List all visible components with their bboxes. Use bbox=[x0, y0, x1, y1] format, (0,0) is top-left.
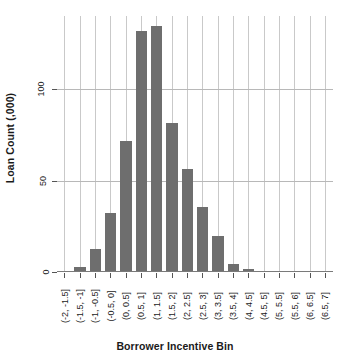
x-axis-tick-label: (-2, -1.5] bbox=[58, 281, 72, 333]
x-axis-tick-label-text: (4.5, 5] bbox=[259, 292, 269, 320]
bar bbox=[212, 236, 223, 271]
x-axis-tick-label: (-1, -0.5] bbox=[88, 281, 102, 333]
x-axis-tick-mark bbox=[264, 273, 265, 278]
x-axis-tick-label: (0.5, 1] bbox=[134, 281, 148, 333]
x-axis-tick-label: (5.5, 6] bbox=[288, 281, 302, 333]
x-axis-tick-label: (1, 1.5] bbox=[150, 281, 164, 333]
vertical-gridline bbox=[95, 16, 96, 272]
x-axis-tick-label: (6.5, 7] bbox=[318, 281, 332, 333]
plot-area bbox=[57, 16, 333, 272]
bar bbox=[182, 169, 193, 271]
vertical-gridline bbox=[310, 16, 311, 272]
x-axis-tick-label-text: (-1, -0.5] bbox=[90, 289, 100, 323]
x-axis-tick-label: (2, 2.5] bbox=[180, 281, 194, 333]
x-axis-baseline bbox=[57, 271, 333, 272]
x-axis-tick-label-text: (1.5, 2] bbox=[167, 292, 177, 320]
vertical-gridline bbox=[264, 16, 265, 272]
vertical-gridline bbox=[294, 16, 295, 272]
x-axis-tick-label-text: (-2, -1.5] bbox=[60, 289, 70, 323]
x-axis-tick-label: (4, 4.5] bbox=[242, 281, 256, 333]
x-axis-tick-mark bbox=[172, 273, 173, 278]
x-axis-tick-label-text: (3, 3.5] bbox=[213, 292, 223, 320]
x-axis-tick-label-text: (0, 0.5] bbox=[121, 292, 131, 320]
y-axis-title-text: Loan Count (,000) bbox=[4, 92, 16, 182]
x-axis-tick-label-text: (2, 2.5] bbox=[182, 292, 192, 320]
y-axis-tick-mark bbox=[52, 272, 57, 273]
x-axis-tick-label-text: (-1.5, -1] bbox=[75, 289, 85, 323]
x-axis-tick-mark bbox=[156, 273, 157, 278]
x-axis-tick-label-text: (2.5, 3] bbox=[198, 292, 208, 320]
x-axis-tick-label-text: (6, 6.5] bbox=[305, 292, 315, 320]
y-axis-tick-label: 50 bbox=[26, 175, 48, 187]
y-axis-tick-label-text: 0 bbox=[40, 269, 50, 274]
x-axis-tick-label: (3, 3.5] bbox=[211, 281, 225, 333]
x-axis-tick-mark bbox=[141, 273, 142, 278]
y-axis-tick-label: 0 bbox=[26, 266, 48, 278]
vertical-gridline bbox=[64, 16, 65, 272]
x-axis-tick-label-text: (1, 1.5] bbox=[152, 292, 162, 320]
vertical-gridline bbox=[80, 16, 81, 272]
x-axis-tick-label: (-0.5, 0] bbox=[104, 281, 118, 333]
x-axis-tick-label: (4.5, 5] bbox=[257, 281, 271, 333]
x-axis-tick-mark bbox=[110, 273, 111, 278]
bar bbox=[197, 207, 208, 271]
x-axis-tick-mark bbox=[202, 273, 203, 278]
bar bbox=[120, 141, 131, 271]
x-axis-tick-mark bbox=[80, 273, 81, 278]
x-axis-tick-label: (6, 6.5] bbox=[303, 281, 317, 333]
x-axis-tick-mark bbox=[233, 273, 234, 278]
histogram-chart: Loan Count (,000) 050100 (-2, -1.5](-1.5… bbox=[0, 0, 350, 361]
x-axis-tick-label-text: (6.5, 7] bbox=[320, 292, 330, 320]
x-axis-tick-mark bbox=[310, 273, 311, 278]
x-axis-tick-mark bbox=[279, 273, 280, 278]
x-axis-tick-mark bbox=[325, 273, 326, 278]
vertical-gridline bbox=[248, 16, 249, 272]
x-axis-title: Borrower Incentive Bin bbox=[0, 340, 350, 352]
x-axis-tick-label: (0, 0.5] bbox=[119, 281, 133, 333]
y-axis-tick-label: 100 bbox=[26, 83, 48, 95]
x-axis-tick-label-text: (-0.5, 0] bbox=[106, 290, 116, 321]
bar bbox=[151, 26, 162, 271]
x-axis-tick-label-text: (5.5, 6] bbox=[290, 292, 300, 320]
bar bbox=[136, 31, 147, 271]
x-axis-tick-label: (2.5, 3] bbox=[196, 281, 210, 333]
bar bbox=[228, 264, 239, 271]
x-axis-tick-label-text: (3.5, 4] bbox=[228, 292, 238, 320]
x-axis-tick-label: (3.5, 4] bbox=[226, 281, 240, 333]
x-axis-tick-mark bbox=[95, 273, 96, 278]
y-axis-tick-label-text: 100 bbox=[35, 81, 45, 96]
y-axis-tick-label-text: 50 bbox=[38, 176, 48, 186]
x-axis-tick-mark bbox=[294, 273, 295, 278]
vertical-gridline bbox=[218, 16, 219, 272]
bar bbox=[166, 123, 177, 271]
x-axis-tick-label: (-1.5, -1] bbox=[73, 281, 87, 333]
x-axis-tick-label-text: (4, 4.5] bbox=[244, 292, 254, 320]
horizontal-gridline bbox=[57, 181, 333, 182]
x-axis-tick-label: (1.5, 2] bbox=[165, 281, 179, 333]
x-axis-tick-mark bbox=[64, 273, 65, 278]
x-axis-tick-mark bbox=[248, 273, 249, 278]
y-axis-title: Loan Count (,000) bbox=[0, 0, 20, 275]
x-axis-tick-mark bbox=[187, 273, 188, 278]
vertical-gridline bbox=[233, 16, 234, 272]
x-axis-tick-label: (5, 5.5] bbox=[272, 281, 286, 333]
x-axis-tick-label-text: (5, 5.5] bbox=[274, 292, 284, 320]
vertical-gridline bbox=[325, 16, 326, 272]
x-axis-tick-label-text: (0.5, 1] bbox=[136, 292, 146, 320]
x-axis-tick-mark bbox=[218, 273, 219, 278]
x-axis-tick-mark bbox=[126, 273, 127, 278]
horizontal-gridline bbox=[57, 89, 333, 90]
bar bbox=[105, 213, 116, 272]
vertical-gridline bbox=[279, 16, 280, 272]
bar bbox=[90, 249, 101, 271]
